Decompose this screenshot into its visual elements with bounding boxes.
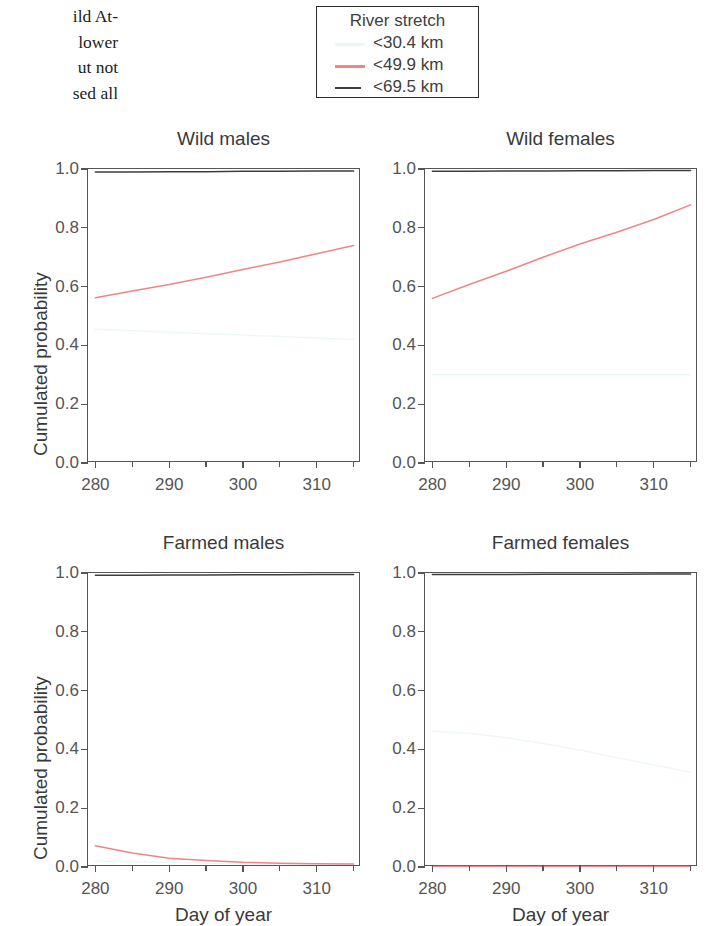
x-axis-tick <box>169 461 170 468</box>
x-axis-tick-label: 290 <box>492 475 520 495</box>
body-text-line: ild At- <box>0 4 118 30</box>
y-axis-tick-label: 1.0 <box>392 563 416 583</box>
y-axis-tick <box>418 345 425 346</box>
x-axis-minor-tick <box>469 461 470 467</box>
x-axis-minor-tick <box>542 461 543 467</box>
x-axis-tick-label: 300 <box>229 879 257 899</box>
y-axis-tick-label: 0.0 <box>55 857 79 877</box>
article-body-text-fragment: ild At- lowerut notsed all <box>0 4 118 106</box>
y-axis-tick <box>418 808 425 809</box>
y-axis-tick <box>418 572 425 573</box>
y-axis-title: Cumulated probability <box>30 272 52 456</box>
y-axis-tick <box>418 227 425 228</box>
y-axis-tick-label: 0.4 <box>392 739 416 759</box>
y-axis-tick-label: 0.6 <box>392 277 416 297</box>
x-axis-minor-tick <box>690 461 691 467</box>
y-axis-tick-label: 0.6 <box>392 681 416 701</box>
series-line <box>95 245 353 297</box>
series-canvas <box>88 573 361 867</box>
y-axis-title: Cumulated probability <box>30 676 52 860</box>
x-axis-tick-label: 310 <box>303 879 331 899</box>
legend-entry: <69.5 km <box>317 77 478 99</box>
series-line <box>95 574 353 575</box>
x-axis-tick-label: 280 <box>81 475 109 495</box>
series-line <box>95 171 353 172</box>
x-axis-tick-label: 290 <box>155 879 183 899</box>
x-axis-minor-tick <box>279 865 280 871</box>
y-axis-tick <box>81 168 88 169</box>
x-axis-minor-tick <box>690 865 691 871</box>
x-axis-tick-label: 300 <box>566 879 594 899</box>
x-axis-tick-label: 280 <box>418 475 446 495</box>
legend-entry-label: <69.5 km <box>373 77 473 97</box>
x-axis-minor-tick <box>132 865 133 871</box>
x-axis-tick <box>242 461 243 468</box>
y-axis-tick <box>81 404 88 405</box>
series-line <box>95 329 353 339</box>
series-line <box>95 861 353 864</box>
y-axis-tick-label: 0.0 <box>392 857 416 877</box>
x-axis-tick <box>316 865 317 872</box>
y-axis-tick-label: 0.0 <box>392 453 416 473</box>
x-axis-tick <box>432 865 433 872</box>
x-axis-tick <box>169 865 170 872</box>
x-axis-title: Day of year <box>424 904 697 926</box>
x-axis-tick-label: 290 <box>492 879 520 899</box>
x-axis-tick <box>653 461 654 468</box>
series-canvas <box>425 169 698 463</box>
y-axis-tick <box>81 286 88 287</box>
series-line <box>432 731 690 772</box>
x-axis-tick-label: 310 <box>640 879 668 899</box>
x-axis-minor-tick <box>132 461 133 467</box>
x-axis-tick <box>242 865 243 872</box>
y-axis-tick-label: 0.4 <box>55 335 79 355</box>
x-axis-tick <box>579 461 580 468</box>
y-axis-tick-label: 1.0 <box>55 159 79 179</box>
legend-title: River stretch <box>317 11 478 31</box>
y-axis-tick <box>418 462 425 463</box>
legend-entry: <49.9 km <box>317 55 478 77</box>
y-axis-tick-label: 1.0 <box>55 563 79 583</box>
x-axis-tick <box>506 461 507 468</box>
x-axis-tick-label: 290 <box>155 475 183 495</box>
x-axis-minor-tick <box>205 865 206 871</box>
x-axis-tick <box>579 865 580 872</box>
x-axis-minor-tick <box>205 461 206 467</box>
y-axis-tick-label: 0.6 <box>55 681 79 701</box>
y-axis-tick-label: 0.2 <box>392 394 416 414</box>
y-axis-tick-label: 0.6 <box>55 277 79 297</box>
panel-title: Wild males <box>87 128 360 150</box>
x-axis-minor-tick <box>353 461 354 467</box>
y-axis-tick <box>418 749 425 750</box>
x-axis-minor-tick <box>616 461 617 467</box>
y-axis-tick <box>81 690 88 691</box>
x-axis-tick-label: 300 <box>566 475 594 495</box>
x-axis-tick-label: 300 <box>229 475 257 495</box>
x-axis-tick <box>316 461 317 468</box>
y-axis-tick-label: 0.2 <box>55 394 79 414</box>
x-axis-minor-tick <box>279 461 280 467</box>
y-axis-tick <box>81 462 88 463</box>
series-line <box>432 170 690 171</box>
series-canvas <box>88 169 361 463</box>
x-axis-minor-tick <box>616 865 617 871</box>
x-axis-tick-label: 310 <box>303 475 331 495</box>
plot-area: 1.00.80.60.40.20.0280290300310 <box>87 572 360 866</box>
x-axis-tick-label: 280 <box>81 879 109 899</box>
y-axis-tick <box>81 749 88 750</box>
x-axis-tick <box>653 865 654 872</box>
panel-title: Farmed females <box>424 532 697 554</box>
y-axis-tick <box>418 866 425 867</box>
y-axis-tick-label: 0.8 <box>55 622 79 642</box>
y-axis-tick <box>418 286 425 287</box>
chart-legend: River stretch <30.4 km<49.9 km<69.5 km <box>316 6 479 98</box>
panel-title: Farmed males <box>87 532 360 554</box>
y-axis-tick-label: 0.2 <box>55 798 79 818</box>
x-axis-tick <box>95 865 96 872</box>
series-line <box>95 846 353 864</box>
series-line <box>432 205 690 298</box>
x-axis-minor-tick <box>353 865 354 871</box>
